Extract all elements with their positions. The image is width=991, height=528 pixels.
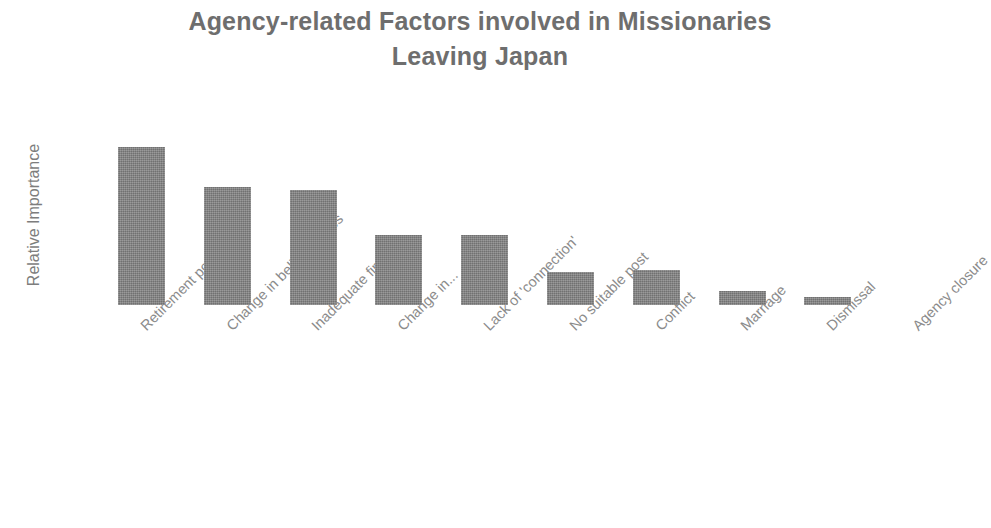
bar — [290, 190, 337, 305]
bar — [204, 187, 251, 306]
bar — [375, 235, 422, 305]
x-axis-tick-label: Dismissal — [824, 279, 878, 333]
x-axis-tick-label: Agency closure — [910, 253, 990, 333]
bar — [118, 147, 165, 305]
bar — [633, 270, 680, 305]
bar — [461, 235, 508, 305]
